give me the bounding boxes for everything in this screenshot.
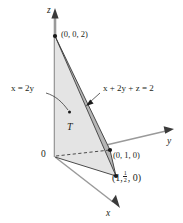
point-label-xy-prefix: (1,: [112, 172, 123, 183]
point-label-xy-point: (1,12, 0): [112, 170, 141, 184]
geometry-drawing: [0, 0, 183, 223]
region-label-T: T: [67, 122, 73, 132]
origin-label: 0: [41, 150, 46, 160]
leader-dot-x-equals-2y: [68, 111, 71, 114]
equation-label-x-equals-2y: x = 2y: [11, 84, 34, 93]
x-axis-label: x: [106, 209, 110, 219]
point-label-xy-suffix: , 0): [128, 172, 141, 183]
z-axis-label: z: [47, 6, 51, 16]
point-label-xy-fraction: 12: [123, 170, 127, 184]
figure-canvas: z y x 0 (0, 0, 2) (0, 1, 0) (1,12, 0) x …: [0, 0, 183, 223]
point-label-z-intercept: (0, 0, 2): [61, 30, 88, 39]
vertex-dot-y-intercept: [108, 148, 112, 152]
leader-line-plane-equation: [90, 93, 100, 102]
fraction-denominator: 2: [123, 176, 127, 183]
equation-label-plane: x + 2y + z = 2: [103, 84, 154, 93]
y-axis-label: y: [167, 137, 171, 147]
y-axis-arrowhead: [164, 126, 174, 134]
z-axis-arrowhead: [51, 8, 58, 19]
vertex-dot-z-intercept: [53, 34, 57, 38]
point-label-y-intercept: (0, 1, 0): [113, 151, 140, 160]
x-axis-arrowhead: [112, 195, 121, 208]
